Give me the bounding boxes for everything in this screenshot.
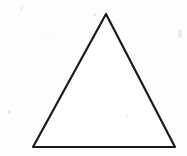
drawing-canvas [0,0,187,156]
triangle-shape [33,14,175,147]
triangle-figure [0,0,187,156]
